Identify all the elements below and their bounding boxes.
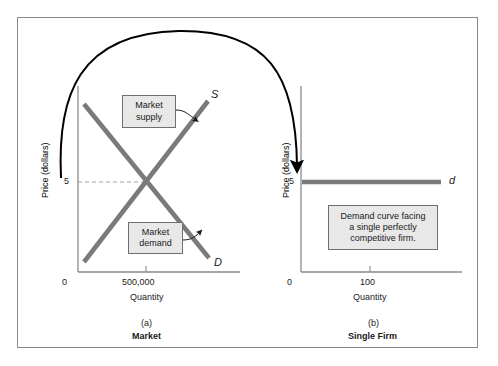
panel-a-origin-label: 0 xyxy=(62,277,67,287)
panel-b-x-axis-label: Quantity xyxy=(353,292,387,302)
market-supply-callout-line-2: supply xyxy=(136,112,162,123)
market-supply-callout: Market supply xyxy=(122,95,176,128)
panel-a-x-tick-500000: 500,000 xyxy=(122,277,155,287)
market-demand-callout-line-1: Market xyxy=(142,227,170,238)
panel-a-y-axis-label: Price (dollars) xyxy=(40,142,50,198)
price-transfer-arrow xyxy=(61,31,297,178)
panel-b-caption-name: Single Firm xyxy=(348,331,397,341)
panel-a-x-axis-label: Quantity xyxy=(130,292,164,302)
demand-curve-label: D xyxy=(214,256,222,268)
panel-b-x-tick-100: 100 xyxy=(360,277,375,287)
supply-curve-label: S xyxy=(211,88,218,100)
firm-demand-curve-label: d xyxy=(449,174,455,186)
panel-b-caption-letter: (b) xyxy=(368,318,379,328)
panel-a-caption-letter: (a) xyxy=(141,318,152,328)
firm-demand-callout: Demand curve facing a single perfectly c… xyxy=(328,205,438,250)
firm-demand-callout-line-1: Demand curve facing xyxy=(340,211,425,222)
market-demand-callout-line-2: demand xyxy=(139,238,172,249)
firm-demand-callout-line-3: competitive firm. xyxy=(350,233,416,244)
panel-a-y-tick-5: 5 xyxy=(64,176,69,186)
panel-b-y-axis-label: Price (dollars) xyxy=(281,142,291,198)
market-demand-callout: Market demand xyxy=(128,222,183,254)
panel-a-caption-name: Market xyxy=(132,331,161,341)
firm-demand-callout-line-2: a single perfectly xyxy=(349,222,417,233)
panel-b-origin-label: 0 xyxy=(287,277,292,287)
diagram-graphics xyxy=(0,0,498,366)
figure-canvas: Price (dollars) 5 0 500,000 Quantity S D… xyxy=(0,0,498,366)
market-supply-callout-line-1: Market xyxy=(135,100,163,111)
panel-b-y-tick-5: 5 xyxy=(289,176,294,186)
